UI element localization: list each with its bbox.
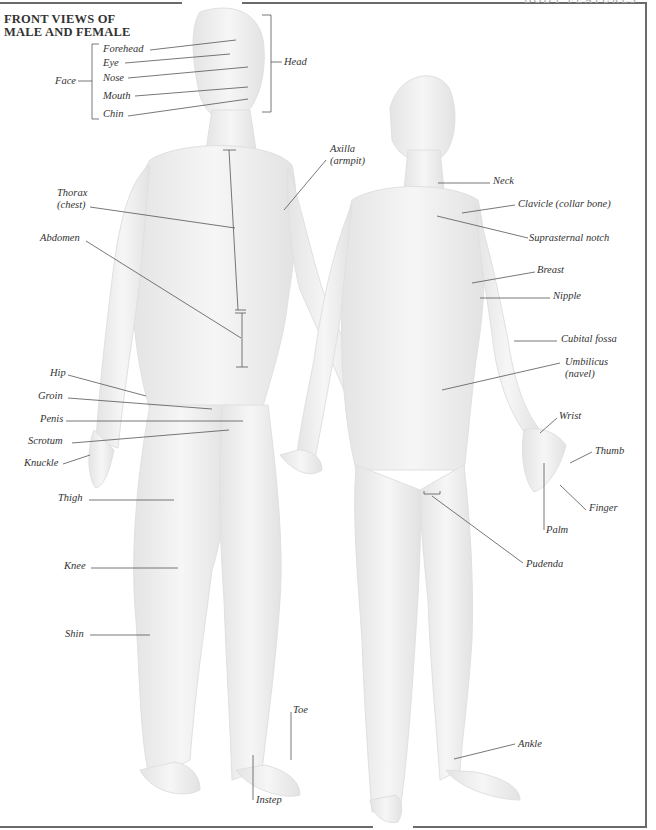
label-scrotum: Scrotum (28, 435, 63, 447)
label-pudenda: Pudenda (526, 558, 563, 570)
label-thorax-line2: (chest) (57, 199, 87, 211)
label-axilla-line1: Axilla (330, 143, 365, 155)
leader-lines (0, 0, 656, 830)
label-instep: Instep (256, 794, 282, 806)
label-knee: Knee (64, 560, 86, 572)
label-finger: Finger (589, 502, 618, 514)
label-cubital-fossa: Cubital fossa (561, 333, 617, 345)
label-thigh: Thigh (58, 492, 83, 504)
label-face: Face (55, 75, 76, 87)
label-shin: Shin (65, 628, 84, 640)
label-umbilicus-line1: Umbilicus (565, 356, 608, 368)
label-axilla: Axilla (armpit) (330, 143, 365, 167)
label-clavicle: Clavicle (collar bone) (518, 198, 611, 210)
label-neck: Neck (493, 175, 514, 187)
label-forehead: Forehead (103, 43, 143, 55)
label-umbilicus: Umbilicus (navel) (565, 356, 608, 380)
label-umbilicus-line2: (navel) (565, 368, 608, 380)
label-toe: Toe (293, 704, 308, 716)
label-groin: Groin (38, 390, 63, 402)
label-nose: Nose (103, 72, 124, 84)
label-breast: Breast (537, 264, 564, 276)
label-palm: Palm (546, 524, 568, 536)
label-thorax-line1: Thorax (57, 187, 87, 199)
label-knuckle: Knuckle (24, 457, 58, 469)
label-axilla-line2: (armpit) (330, 155, 365, 167)
label-mouth: Mouth (103, 90, 130, 102)
title-line-2: MALE AND FEMALE (4, 26, 131, 39)
label-abdomen: Abdomen (40, 232, 80, 244)
label-hip: Hip (50, 367, 66, 379)
label-thorax: Thorax (chest) (57, 187, 87, 211)
label-thumb: Thumb (595, 445, 624, 457)
label-ankle: Ankle (518, 738, 542, 750)
label-head: Head (284, 56, 307, 68)
label-suprasternal-notch: Suprasternal notch (529, 232, 609, 244)
label-wrist: Wrist (559, 410, 581, 422)
label-penis: Penis (40, 413, 63, 425)
label-eye: Eye (103, 57, 119, 69)
label-nipple: Nipple (553, 290, 581, 302)
label-chin: Chin (103, 108, 123, 120)
page-title: FRONT VIEWS OF MALE AND FEMALE (4, 13, 131, 39)
